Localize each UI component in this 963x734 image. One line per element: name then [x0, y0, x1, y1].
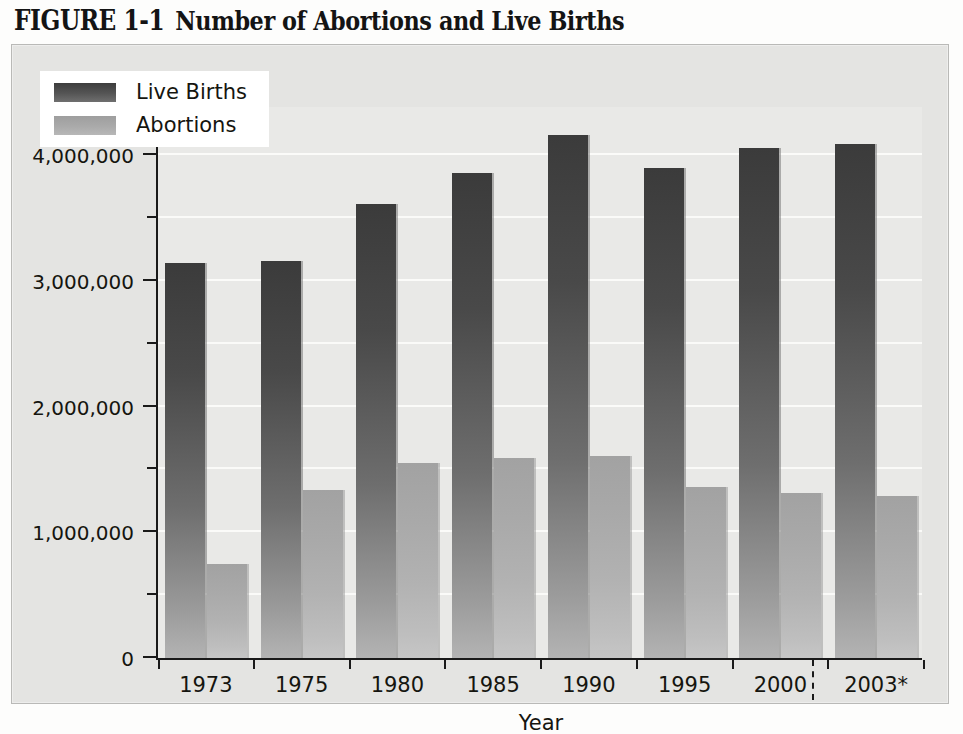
legend-label-abortions: Abortions	[136, 113, 236, 137]
x-axis-tick	[253, 660, 255, 669]
y-axis-label: 2,000,000	[0, 396, 134, 420]
chart-legend: Live Births Abortions	[40, 71, 269, 147]
x-axis-tick	[444, 660, 446, 669]
bar-live-births	[835, 144, 875, 658]
x-axis-tick	[732, 660, 734, 669]
legend-label-live-births: Live Births	[136, 80, 247, 104]
x-axis-tick	[636, 660, 638, 669]
y-axis-minor-tick	[147, 216, 156, 218]
bar-abortions	[207, 564, 247, 658]
x-axis-label: 1975	[254, 673, 350, 697]
figure-frame: 01,000,0002,000,0003,000,0004,000,000197…	[11, 44, 949, 704]
x-axis-tick	[540, 660, 542, 669]
bar-live-births	[739, 148, 779, 658]
x-axis-label: 1973	[158, 673, 254, 697]
y-axis-label: 3,000,000	[0, 270, 134, 294]
bar-abortions	[877, 496, 917, 658]
figure-title: FIGURE 1-1 Number of Abortions and Live …	[14, 2, 616, 36]
bar-live-births	[548, 135, 588, 658]
bar-live-births	[356, 204, 396, 658]
bar-abortions	[303, 490, 343, 658]
x-axis-label: 1995	[637, 673, 733, 697]
bar-abortions	[781, 493, 821, 658]
y-axis-tick	[143, 405, 156, 407]
legend-item-abortions: Abortions	[54, 113, 247, 137]
y-axis-label: 4,000,000	[0, 144, 134, 168]
x-axis-tick	[349, 660, 351, 669]
year-separator-dashed-line	[812, 660, 814, 700]
legend-item-live-births: Live Births	[54, 80, 247, 104]
bar-live-births	[261, 261, 301, 658]
bar-abortions	[494, 458, 534, 658]
figure-number: FIGURE 1-1	[14, 5, 164, 36]
x-axis-label: 1990	[541, 673, 637, 697]
bar-abortions	[398, 463, 438, 658]
bar-abortions	[590, 456, 630, 658]
legend-swatch-abortions-icon	[54, 116, 116, 135]
gridline	[158, 153, 922, 155]
legend-swatch-live-births-icon	[54, 83, 116, 102]
y-axis-minor-tick	[147, 593, 156, 595]
bar-abortions	[686, 487, 726, 658]
y-axis-label: 1,000,000	[0, 521, 134, 545]
bar-live-births	[644, 168, 684, 658]
y-axis-minor-tick	[147, 467, 156, 469]
figure-caption: Number of Abortions and Live Births	[175, 6, 624, 36]
gridline	[158, 216, 922, 218]
chart-plot-area: 01,000,0002,000,0003,000,0004,000,000197…	[156, 107, 922, 660]
y-axis-tick	[143, 153, 156, 155]
x-axis-tick	[923, 660, 925, 669]
x-axis-label: 1985	[445, 673, 541, 697]
bar-live-births	[165, 263, 205, 658]
y-axis-label: 0	[0, 647, 134, 671]
y-axis-tick	[143, 656, 156, 658]
y-axis-tick	[143, 530, 156, 532]
y-axis-tick	[143, 279, 156, 281]
x-axis-tick	[158, 660, 160, 669]
bar-live-births	[452, 173, 492, 658]
x-axis-tick	[827, 660, 829, 669]
x-axis-label: 2003*	[828, 673, 924, 697]
x-axis-label: 1980	[350, 673, 446, 697]
x-axis-title: Year	[158, 711, 924, 734]
y-axis-minor-tick	[147, 342, 156, 344]
